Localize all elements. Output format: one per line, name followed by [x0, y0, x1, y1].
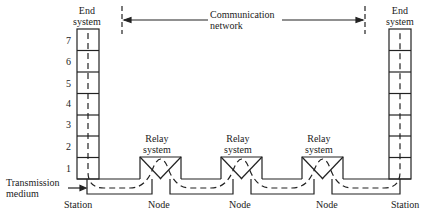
node-label-2: Node — [229, 199, 251, 210]
label-line: Relay — [143, 133, 171, 144]
label-line: Relay — [224, 133, 252, 144]
label-line: Transmission — [6, 177, 60, 188]
layer-label-7: 7 — [66, 36, 71, 46]
label-line: system — [305, 144, 333, 155]
label-line: system — [143, 144, 171, 155]
relay-system-label-3: Relay system — [305, 133, 333, 155]
label-line: system — [73, 16, 101, 27]
layer-label-4: 4 — [66, 99, 71, 109]
diagram-canvas — [0, 0, 427, 212]
relay-system-label-2: Relay system — [224, 133, 252, 155]
relay-system-label-1: Relay system — [143, 133, 171, 155]
end-system-left-label: End system — [73, 5, 101, 27]
layer-label-6: 6 — [66, 57, 71, 67]
transmission-medium-label: Transmission medium — [6, 177, 60, 199]
layer-label-1: 1 — [66, 164, 71, 174]
label-line: network — [210, 20, 274, 31]
layer-label-3: 3 — [66, 120, 71, 130]
label-line: system — [386, 16, 414, 27]
label-line: Communication — [210, 9, 274, 20]
layer-label-5: 5 — [66, 79, 71, 89]
layer-label-2: 2 — [66, 142, 71, 152]
transmission-medium — [77, 179, 411, 194]
data-path — [88, 33, 400, 188]
label-line: End — [73, 5, 101, 16]
node-label-3: Node — [316, 199, 338, 210]
label-line: Relay — [305, 133, 333, 144]
label-line: medium — [6, 188, 60, 199]
relay-box-1 — [140, 157, 181, 179]
end-system-right-label: End system — [386, 5, 414, 27]
label-line: End — [386, 5, 414, 16]
station-label-left: Station — [64, 199, 92, 210]
relay-box-2 — [221, 157, 262, 179]
relay-box-3 — [302, 157, 343, 179]
communication-network-label: Communication network — [210, 9, 274, 31]
label-line: system — [224, 144, 252, 155]
medium-pointer-arrow — [68, 186, 86, 191]
node-label-1: Node — [148, 199, 170, 210]
station-label-right: Station — [391, 199, 419, 210]
